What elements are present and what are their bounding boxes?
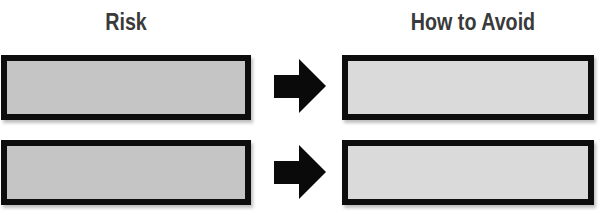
risk-box-1 [1, 55, 251, 120]
how-to-avoid-box-2 [342, 140, 594, 205]
arrow-right-icon [272, 145, 328, 199]
how-to-avoid-box-1 [342, 55, 594, 120]
column-header-risk: Risk [85, 8, 167, 36]
column-header-how-to-avoid: How to Avoid [407, 8, 538, 36]
arrow-right-icon [272, 59, 328, 113]
risk-box-2 [1, 140, 251, 205]
